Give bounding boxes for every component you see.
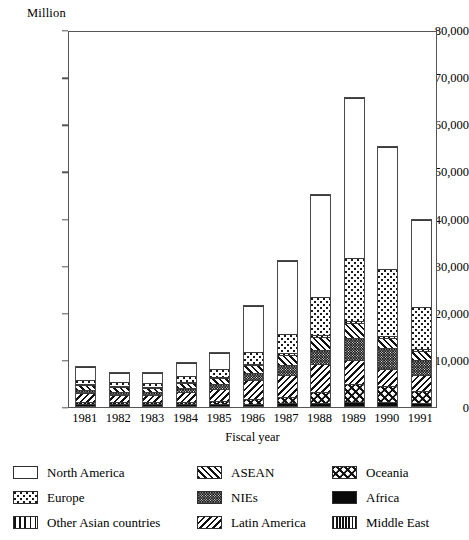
bar-segment <box>311 195 330 297</box>
bar-segment <box>278 404 297 406</box>
x-axis-tick-label: 1991 <box>408 411 433 426</box>
bar-segment <box>378 402 397 403</box>
bar-segment <box>177 402 196 404</box>
bar-segment <box>412 360 431 376</box>
legend-column-3: OceaniaAfricaMiddle East <box>332 460 429 535</box>
legend-item: Africa <box>332 485 429 510</box>
bar-segment <box>412 351 431 360</box>
bar-segment <box>76 404 95 405</box>
legend-swatch-north <box>13 466 38 479</box>
bar-1990 <box>377 146 398 407</box>
bar-segment <box>110 395 129 402</box>
bar-segment <box>311 403 330 404</box>
bar-segment <box>143 388 162 392</box>
bar-segment <box>143 405 162 406</box>
bar-segment <box>244 380 263 398</box>
bar-segment <box>210 405 229 406</box>
legend-label: Latin America <box>231 516 306 529</box>
bar-segment <box>412 349 431 351</box>
bar-segment <box>244 373 263 380</box>
bar-segment <box>143 373 162 383</box>
x-axis-tick-label: 1984 <box>173 411 198 426</box>
bar-segment <box>244 352 263 364</box>
legend-column-2: ASEANNIEsLatin America <box>197 460 306 535</box>
legend-item: Latin America <box>197 510 306 535</box>
bar-segment <box>110 373 129 383</box>
legend-label: Oceania <box>366 466 409 479</box>
legend-item: Oceania <box>332 460 429 485</box>
legend-item: ASEAN <box>197 460 306 485</box>
bar-1984 <box>176 362 197 407</box>
bar-segment <box>177 392 196 402</box>
bar-segment <box>76 385 95 390</box>
legend-label: North America <box>47 466 125 479</box>
bar-segment <box>345 321 364 323</box>
legend-label: ASEAN <box>231 466 274 479</box>
bar-segment <box>210 404 229 405</box>
bar-segment <box>210 369 229 377</box>
bar-segment <box>177 405 196 406</box>
bar-segment <box>110 402 129 404</box>
legend-label: NIEs <box>231 491 258 504</box>
bar-segment <box>76 367 95 379</box>
bar-segment <box>210 389 229 401</box>
bar-segment <box>244 399 263 404</box>
x-axis-tick-label: 1981 <box>72 411 97 426</box>
bar-1988 <box>310 194 331 407</box>
legend-item: Europe <box>13 485 160 510</box>
legend-swatch-africa <box>332 491 357 504</box>
bar-segment <box>210 377 229 378</box>
bar-segment <box>311 335 330 337</box>
legend-swatch-europe <box>13 491 38 504</box>
bar-segment <box>311 350 330 364</box>
legend-column-1: North AmericaEuropeOther Asian countries <box>13 460 160 535</box>
bar-segment <box>278 397 297 404</box>
bar-segment <box>244 365 263 373</box>
bar-segment <box>378 269 397 335</box>
bar-segment <box>345 258 364 321</box>
bar-segment <box>244 405 263 406</box>
bar-segment <box>378 386 397 402</box>
bar-segment <box>311 364 330 392</box>
bar-segment <box>177 376 196 381</box>
x-axis-tick-label: 1987 <box>274 411 299 426</box>
legend-item: Other Asian countries <box>13 510 160 535</box>
bar-segment <box>278 334 297 354</box>
bar-segment <box>76 380 95 384</box>
bar-segment <box>412 375 431 390</box>
bar-segment <box>143 387 162 388</box>
bar-1985 <box>209 352 230 407</box>
bar-segment <box>110 392 129 395</box>
y-axis-unit-label: Million <box>27 6 66 21</box>
legend-label: Africa <box>366 491 399 504</box>
bar-segment <box>345 384 364 401</box>
bar-segment <box>143 392 162 395</box>
bar-segment <box>311 392 330 403</box>
bar-segment <box>278 353 297 354</box>
legend-swatch-otherasia <box>13 516 38 529</box>
plot-area <box>68 31 437 408</box>
legend-swatch-mideast <box>332 516 357 529</box>
bar-segment <box>143 402 162 404</box>
legend-swatch-latin <box>197 516 222 529</box>
bar-segment <box>76 393 95 401</box>
legend-item: NIEs <box>197 485 306 510</box>
legend-swatch-oceania <box>332 466 357 479</box>
bar-segment <box>177 404 196 405</box>
bar-segment <box>76 405 95 406</box>
bar-segment <box>378 403 397 406</box>
bar-segment <box>278 365 297 375</box>
bar-segment <box>378 338 397 348</box>
bar-segment <box>210 384 229 389</box>
legend-swatch-asean <box>197 466 222 479</box>
bar-segment <box>244 306 263 352</box>
x-axis-tick-label: 1982 <box>106 411 131 426</box>
x-axis-title: Fiscal year <box>68 430 437 445</box>
bar-segment <box>110 382 129 386</box>
chart-legend: North AmericaEuropeOther Asian countries… <box>0 460 469 536</box>
bar-segment <box>412 391 431 403</box>
x-axis-tick-label: 1989 <box>341 411 366 426</box>
bar-segment <box>177 363 196 376</box>
bar-segment <box>345 403 364 406</box>
x-axis-tick-label: 1988 <box>307 411 332 426</box>
